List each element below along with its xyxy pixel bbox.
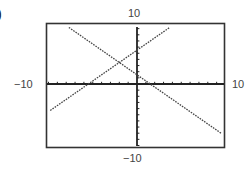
- increasing-line: [50, 27, 169, 110]
- viewing-window-frame: [47, 24, 225, 148]
- plotted-lines: [50, 27, 221, 133]
- decreasing-line: [69, 27, 221, 133]
- graph-plot: [0, 0, 249, 170]
- axes: [47, 27, 224, 146]
